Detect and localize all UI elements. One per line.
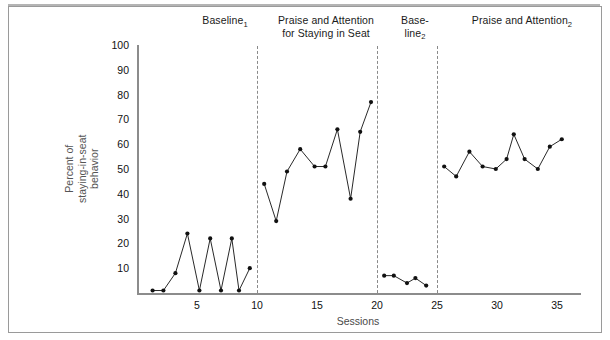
data-point: [358, 130, 362, 134]
data-point: [560, 137, 564, 141]
data-point: [173, 271, 177, 275]
data-point: [442, 164, 446, 168]
phase-line-0: [153, 233, 250, 290]
data-point: [208, 236, 212, 240]
data-point: [285, 169, 289, 173]
data-point: [536, 167, 540, 171]
data-point: [335, 127, 339, 131]
data-point: [424, 283, 428, 287]
data-point: [262, 182, 266, 186]
data-point: [548, 145, 552, 149]
data-point: [161, 288, 165, 292]
data-point: [298, 147, 302, 151]
data-point: [197, 288, 201, 292]
data-point: [323, 164, 327, 168]
data-point: [454, 174, 458, 178]
data-point: [230, 236, 234, 240]
data-point: [523, 157, 527, 161]
data-point: [349, 197, 353, 201]
data-point: [413, 276, 417, 280]
data-point: [505, 157, 509, 161]
data-point: [185, 231, 189, 235]
data-point: [494, 167, 498, 171]
plot-area: 100 90 80 70 60 50 40 30 20 10 5 10 15 2…: [0, 0, 610, 340]
data-point: [467, 150, 471, 154]
data-point: [237, 288, 241, 292]
data-point: [274, 219, 278, 223]
data-point: [248, 266, 252, 270]
data-point: [392, 274, 396, 278]
data-point: [382, 274, 386, 278]
data-point: [512, 132, 516, 136]
data-point: [313, 164, 317, 168]
data-point: [405, 281, 409, 285]
phase-line-1: [264, 102, 371, 221]
data-point: [151, 288, 155, 292]
data-point: [369, 100, 373, 104]
data-point: [481, 164, 485, 168]
chart-figure: Baseline1 Praise and Attention for Stayi…: [0, 0, 610, 340]
phase-line-3: [444, 134, 562, 176]
data-series-layer: [0, 0, 610, 340]
data-point: [219, 288, 223, 292]
